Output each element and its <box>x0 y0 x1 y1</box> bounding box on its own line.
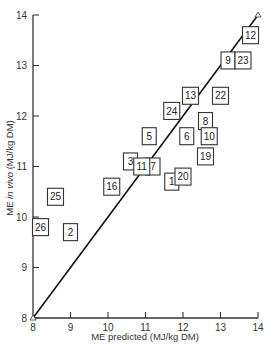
svg-text:22: 22 <box>215 90 227 101</box>
y-tick-label: 8 <box>21 313 27 324</box>
data-point-16: 16 <box>104 178 120 195</box>
y-axis-title: ME in vivo (MJ/kg DM) <box>4 120 15 216</box>
svg-text:10: 10 <box>204 131 216 142</box>
y-tick-label: 12 <box>16 111 28 122</box>
svg-text:26: 26 <box>35 222 47 233</box>
data-point-24: 24 <box>164 102 180 119</box>
data-point-2: 2 <box>64 224 78 241</box>
triangle-marker <box>255 12 261 17</box>
data-point-20: 20 <box>175 168 191 185</box>
svg-text:12: 12 <box>245 30 257 41</box>
x-tick-label: 14 <box>252 322 264 333</box>
svg-text:8: 8 <box>203 116 209 127</box>
data-point-6: 6 <box>180 128 194 145</box>
svg-text:5: 5 <box>146 131 152 142</box>
svg-text:13: 13 <box>185 90 197 101</box>
svg-text:11: 11 <box>137 161 148 172</box>
data-point-12: 12 <box>243 27 259 44</box>
svg-text:1: 1 <box>169 176 175 187</box>
y-tick-label: 11 <box>17 161 28 172</box>
svg-text:6: 6 <box>184 131 190 142</box>
svg-text:20: 20 <box>177 171 189 182</box>
svg-text:23: 23 <box>237 55 249 66</box>
data-point-5: 5 <box>142 128 156 145</box>
data-point-13: 13 <box>183 87 199 104</box>
svg-text:25: 25 <box>50 191 62 202</box>
data-point-22: 22 <box>213 87 229 104</box>
x-tick-label: 13 <box>215 322 227 333</box>
y-tick-label: 10 <box>16 212 28 223</box>
svg-text:3: 3 <box>128 156 134 167</box>
svg-text:7: 7 <box>150 161 156 172</box>
y-tick-label: 9 <box>21 262 27 273</box>
data-point-8: 8 <box>199 113 213 130</box>
data-point-26: 26 <box>33 219 49 236</box>
data-point-23: 23 <box>235 52 251 69</box>
svg-text:9: 9 <box>225 55 231 66</box>
scatter-chart: 891011121314891011121314 123567891011121… <box>0 0 265 347</box>
svg-text:19: 19 <box>200 151 212 162</box>
svg-text:24: 24 <box>166 106 178 117</box>
x-tick-label: 8 <box>30 322 36 333</box>
data-point-25: 25 <box>48 188 64 205</box>
data-points: 12356789101112131619202223242526 <box>33 27 259 241</box>
data-point-10: 10 <box>201 128 217 145</box>
y-tick-label: 13 <box>16 60 28 71</box>
data-point-9: 9 <box>221 52 235 69</box>
x-tick-label: 9 <box>68 322 74 333</box>
y-tick-label: 14 <box>16 10 28 21</box>
svg-text:2: 2 <box>68 227 74 238</box>
data-point-19: 19 <box>198 148 214 165</box>
svg-text:16: 16 <box>106 181 118 192</box>
data-point-11: 11 <box>134 158 150 175</box>
x-axis-title: ME predicted (MJ/kg DM) <box>91 331 199 342</box>
